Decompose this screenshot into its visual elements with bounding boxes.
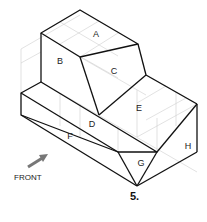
face-label-c: C xyxy=(111,66,118,76)
face-label-g: G xyxy=(137,158,144,168)
face-label-f: F xyxy=(67,131,73,141)
face-label-e: E xyxy=(136,103,142,113)
front-arrow-icon xyxy=(28,154,48,167)
front-direction-label: FRONT xyxy=(14,173,42,182)
face-label-a: A xyxy=(93,29,99,39)
outline xyxy=(21,10,197,186)
face-label-d: D xyxy=(89,119,96,129)
isometric-drawing xyxy=(0,0,207,222)
face-label-b: B xyxy=(57,56,63,66)
face-label-h: H xyxy=(185,141,192,151)
figure-number: 5. xyxy=(130,190,139,202)
